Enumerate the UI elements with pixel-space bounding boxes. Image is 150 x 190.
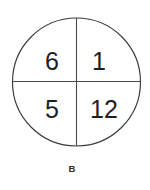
quadrant-value-bottom-right: 12 — [90, 95, 118, 123]
quadrant-value-bottom-left: 5 — [45, 95, 59, 123]
figure-caption-label: B — [68, 163, 75, 174]
quadrant-value-top-left: 6 — [45, 47, 59, 75]
quadrant-value-top-right: 1 — [92, 47, 106, 75]
quadrant-circle-diagram: 6 1 5 12 B — [0, 0, 150, 190]
figure-container: 6 1 5 12 B — [0, 0, 150, 190]
